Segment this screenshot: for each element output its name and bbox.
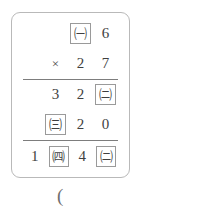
unknown-box-d[interactable]: ㈣: [49, 146, 69, 167]
multiplier-row: × 2 7: [23, 49, 118, 78]
partial-product-1-row: 3 2 ㈡: [23, 80, 118, 109]
partial-product-2-tens-digit: 2: [68, 110, 93, 139]
problem-frame: ㈠ 6 × 2 7 3 2 ㈡ ㈢ 2 0 1 ㈣ 4 ㈡: [11, 12, 130, 178]
answer-parenthesis: (: [57, 186, 63, 205]
multiplicand-ones-digit: 6: [93, 19, 118, 48]
unknown-box-c[interactable]: ㈢: [45, 114, 66, 135]
unknown-box-b[interactable]: ㈡: [95, 84, 116, 105]
partial-product-1-hundreds-digit: 3: [43, 80, 68, 109]
multiplication-operator: ×: [43, 49, 68, 78]
unknown-box-a[interactable]: ㈠: [70, 23, 91, 44]
multiplicand-row: ㈠ 6: [23, 19, 118, 48]
partial-product-2-ones-digit: 0: [93, 110, 118, 139]
partial-product-2-row: ㈢ 2 0: [23, 110, 118, 139]
multiplier-ones-digit: 7: [93, 49, 118, 78]
total-row: 1 ㈣ 4 ㈡: [23, 142, 118, 171]
vertical-multiplication-grid: ㈠ 6 × 2 7 3 2 ㈡ ㈢ 2 0 1 ㈣ 4 ㈡: [12, 13, 129, 177]
partial-product-1-tens-digit: 2: [68, 80, 93, 109]
unknown-box-b-repeat[interactable]: ㈡: [96, 146, 116, 167]
multiplicand-spacer: [43, 19, 68, 48]
multiplier-tens-digit: 2: [68, 49, 93, 78]
total-thousands-digit: 1: [23, 142, 47, 171]
total-tens-digit: 4: [71, 142, 95, 171]
